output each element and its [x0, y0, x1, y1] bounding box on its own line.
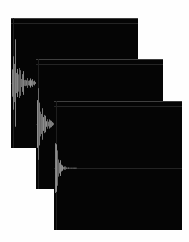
- waveform-plot: [54, 101, 182, 230]
- waveform-stack-figure: [0, 0, 189, 242]
- waveform-panel-front[interactable]: [54, 101, 182, 230]
